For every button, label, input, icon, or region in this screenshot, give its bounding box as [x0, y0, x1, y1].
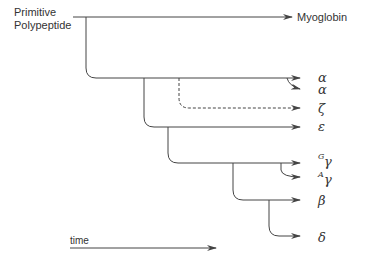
- root-label-line1: Primitive: [14, 6, 56, 18]
- label-gamma-a-superscript: A: [317, 170, 324, 179]
- time-label: time: [70, 235, 89, 246]
- zeta-branch: [179, 78, 300, 108]
- label-alpha2: α: [318, 82, 327, 97]
- label-epsilon: ε: [318, 119, 325, 134]
- gamma-g-branch: [168, 127, 300, 163]
- label-gamma-a: γ: [324, 172, 332, 187]
- epsilon-branch: [144, 78, 300, 127]
- globin-evolution-tree: Primitive Polypeptide Myoglobin α α ζ ε …: [0, 0, 367, 254]
- gamma-a-branch: [281, 163, 300, 177]
- beta-branch: [233, 163, 300, 200]
- alpha-branch: [86, 17, 300, 78]
- alpha2-branch: [287, 78, 300, 89]
- label-beta: β: [317, 193, 326, 208]
- label-myoglobin: Myoglobin: [297, 11, 347, 23]
- root-label-line2: Polypeptide: [14, 19, 72, 31]
- label-delta: δ: [318, 230, 326, 245]
- delta-branch: [269, 200, 300, 236]
- label-zeta: ζ: [318, 101, 326, 116]
- label-gamma-g: γ: [324, 154, 332, 169]
